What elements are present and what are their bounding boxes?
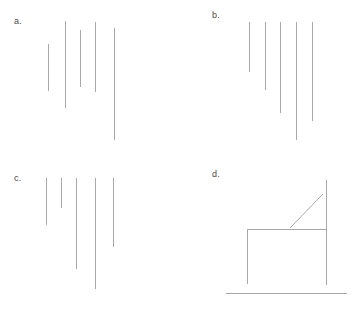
- panel-b: b.: [178, 0, 355, 156]
- panel-b-drawing: [178, 0, 355, 156]
- figure-root: a. b. c. d.: [0, 0, 355, 312]
- panel-c: c.: [0, 156, 177, 312]
- panel-c-drawing: [0, 156, 177, 312]
- panel-a-drawing: [0, 0, 177, 156]
- panel-d-diagonal-stroke: [290, 194, 323, 228]
- panel-d: d.: [178, 156, 355, 312]
- panel-d-drawing: [178, 156, 355, 312]
- panel-a: a.: [0, 0, 177, 156]
